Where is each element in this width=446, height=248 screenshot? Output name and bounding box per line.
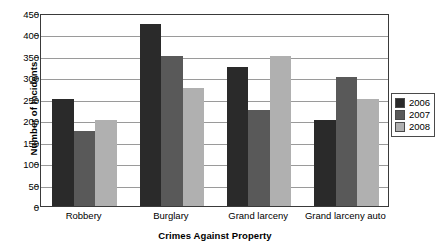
legend-item: 2006 bbox=[395, 97, 430, 109]
bar-group bbox=[52, 15, 117, 206]
legend-label: 2006 bbox=[409, 98, 430, 108]
legend: 200620072008 bbox=[391, 93, 435, 137]
bar-group bbox=[140, 15, 205, 206]
bar-group bbox=[314, 15, 379, 206]
bar bbox=[357, 99, 379, 206]
bar bbox=[336, 77, 358, 206]
bar bbox=[74, 131, 96, 206]
bar-groups bbox=[41, 15, 388, 206]
bar bbox=[227, 67, 249, 206]
legend-swatch-icon bbox=[395, 110, 405, 120]
legend-item: 2008 bbox=[395, 121, 430, 133]
x-axis-title: Crimes Against Property bbox=[40, 230, 390, 241]
y-axis-tick-mark bbox=[34, 78, 39, 79]
bar-group bbox=[227, 15, 292, 206]
y-axis-tick-mark bbox=[34, 186, 39, 187]
bar bbox=[270, 56, 292, 206]
bar bbox=[248, 110, 270, 207]
y-axis-tick-mark bbox=[34, 164, 39, 165]
bar bbox=[183, 88, 205, 206]
bar bbox=[95, 120, 117, 206]
bar bbox=[140, 24, 162, 206]
x-axis-category-label: Grand larceny bbox=[215, 210, 302, 221]
y-axis-tick-mark bbox=[34, 143, 39, 144]
legend-label: 2008 bbox=[409, 122, 430, 132]
plot-area bbox=[40, 14, 389, 207]
legend-swatch-icon bbox=[395, 122, 405, 132]
y-axis-tick-mark bbox=[34, 57, 39, 58]
x-axis-category-label: Burglary bbox=[127, 210, 214, 221]
x-axis-category-label: Robbery bbox=[40, 210, 127, 221]
bar bbox=[314, 120, 336, 206]
y-axis-tick-mark bbox=[34, 207, 39, 208]
x-axis-category-label: Grand larceny auto bbox=[302, 210, 389, 221]
legend-label: 2007 bbox=[409, 110, 430, 120]
legend-swatch-icon bbox=[395, 98, 405, 108]
bar-chart: Number of Incidents 05010015020025030035… bbox=[0, 0, 446, 248]
y-axis-tick-mark bbox=[34, 100, 39, 101]
y-axis-tick-mark bbox=[34, 14, 39, 15]
bar bbox=[161, 56, 183, 206]
bar bbox=[52, 99, 74, 206]
y-axis-tick-mark bbox=[34, 121, 39, 122]
legend-item: 2007 bbox=[395, 109, 430, 121]
y-axis-tick-mark bbox=[34, 35, 39, 36]
y-axis-tick-labels: 050100150200250300350400450 bbox=[0, 14, 39, 207]
